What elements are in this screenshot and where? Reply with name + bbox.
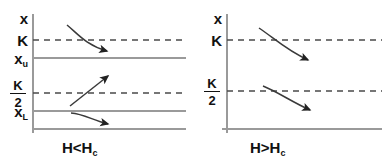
caption-h-less-than-hc: H<Hc [62, 140, 97, 155]
axis-label-K-over-2-numerator: K [204, 77, 220, 91]
caption-left-text: H<H [62, 139, 92, 156]
arrow-down-upper [67, 25, 107, 51]
fraction-bar [10, 93, 26, 94]
axis-label-K-over-2-numerator: K [10, 79, 26, 93]
axis-label-xL-subscript: L [23, 112, 29, 122]
axis-label-xu: xu [4, 51, 28, 66]
caption-h-greater-than-hc: H>Hc [250, 140, 285, 155]
panel-h-greater-than-hc: x K K 2 H>Hc [194, 0, 388, 164]
caption-left-subscript: c [92, 148, 97, 158]
axis-label-K-over-2-denominator: 2 [204, 93, 220, 107]
arrow-down-lower [71, 113, 108, 124]
axis-label-K-over-2: K 2 [204, 77, 220, 107]
axis-label-x: x [6, 11, 28, 26]
axis-label-xL-base: x [14, 103, 22, 120]
caption-right-subscript: c [280, 148, 285, 158]
axis-label-xu-subscript: u [23, 59, 29, 69]
axis-label-K: K [200, 33, 222, 48]
arrow-up-middle [70, 76, 108, 106]
arrow-down-upper [259, 28, 308, 60]
arrow-down-lower [263, 86, 310, 110]
axis-label-x: x [200, 11, 222, 26]
caption-right-text: H>H [250, 139, 280, 156]
fraction-bar [204, 91, 220, 92]
panel-right-graphics [194, 0, 388, 164]
axis-label-K: K [6, 33, 28, 48]
phase-line-figure: x K xu K 2 xL H<Hc [0, 0, 388, 164]
axis-label-xu-base: x [14, 50, 22, 67]
axis-label-xL: xL [4, 104, 28, 119]
panel-h-less-than-hc: x K xu K 2 xL H<Hc [0, 0, 194, 164]
